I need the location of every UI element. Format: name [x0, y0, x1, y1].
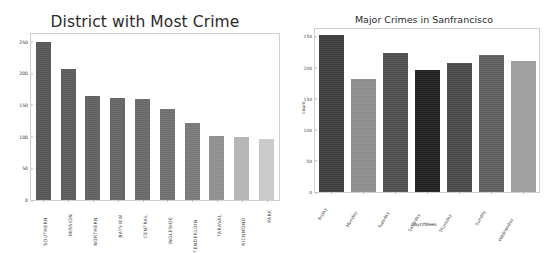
bar: [160, 109, 175, 200]
bar: [185, 123, 200, 200]
y-tick-label: 150: [19, 102, 31, 107]
x-tick-mark: [363, 192, 364, 194]
x-tick-mark: [459, 192, 460, 194]
x-tick-label: Friday: [317, 207, 328, 221]
bar: [511, 61, 536, 192]
y-tick-label: 200: [304, 65, 315, 70]
x-tick-label: SOUTHERN: [43, 217, 48, 246]
bar-series-right: [315, 29, 539, 192]
chart-major-crimes-in-sanfrancisco: Major Crimes in Sanfrancisco count 05010…: [290, 0, 558, 249]
x-tick-mark: [242, 200, 243, 202]
x-tick-label: TENDERLOIN: [192, 220, 197, 253]
bar: [135, 99, 150, 200]
bar-series-left: [31, 34, 279, 200]
bar: [383, 53, 408, 192]
x-tick-mark: [331, 192, 332, 194]
x-tick-mark: [43, 200, 44, 202]
y-tick-label: 100: [19, 134, 31, 139]
x-tick-mark: [167, 200, 168, 202]
x-tick-mark: [68, 200, 69, 202]
y-tick-label: 250: [304, 34, 315, 39]
bar: [415, 70, 440, 192]
y-tick-label: 150: [304, 96, 315, 101]
x-tick-mark: [93, 200, 94, 202]
chart-district-with-most-crime: District with Most Crime 050100150200250…: [0, 0, 290, 249]
y-tick-label: 200: [19, 71, 31, 76]
bar: [479, 55, 504, 192]
bar: [61, 69, 76, 200]
x-axis-labels-left: SOUTHERNMISSIONNORTHERNBAYVIEWCENTRALING…: [31, 200, 279, 248]
bar: [36, 42, 51, 200]
y-tick-label: 100: [304, 127, 315, 132]
bar: [259, 139, 274, 200]
chart-title-left: District with Most Crime: [0, 13, 290, 31]
bar: [85, 96, 100, 200]
x-tick-mark: [267, 200, 268, 202]
x-tick-label: INGLESIDE: [167, 217, 172, 245]
chart-title-right: Major Crimes in Sanfrancisco: [290, 14, 558, 25]
bar: [351, 79, 376, 192]
x-tick-mark: [491, 192, 492, 194]
bar: [110, 98, 125, 200]
y-tick-label: 250: [19, 39, 31, 44]
bar: [209, 136, 224, 200]
y-tick-label: 50: [22, 166, 31, 171]
x-tick-mark: [118, 200, 119, 202]
plot-area-right: 050100150200250 FridayMondayTuesdaySatur…: [314, 28, 540, 193]
x-tick-mark: [143, 200, 144, 202]
x-axis-labels-right: FridayMondayTuesdaySaturdayThursdaySunda…: [315, 192, 539, 226]
bar: [319, 35, 344, 192]
x-tick-label: BAYVIEW: [118, 215, 123, 238]
x-tick-mark: [217, 200, 218, 202]
x-tick-label: RICHMOND: [242, 217, 247, 246]
y-tick-label: 50: [306, 158, 315, 163]
bar: [234, 137, 249, 200]
x-tick-label: MISSION: [68, 214, 73, 236]
x-tick-mark: [192, 200, 193, 202]
x-tick-label: TARAVAL: [217, 214, 222, 236]
x-tick-mark: [523, 192, 524, 194]
x-tick-label: PARK: [267, 210, 272, 223]
bar: [447, 63, 472, 192]
x-tick-label: CENTRAL: [143, 215, 148, 239]
plot-area-left: 050100150200250 SOUTHERNMISSIONNORTHERNB…: [30, 33, 280, 201]
x-tick-mark: [427, 192, 428, 194]
x-axis-label-right: DayOfWeek: [290, 222, 558, 227]
x-tick-label: NORTHERN: [93, 217, 98, 246]
x-tick-mark: [395, 192, 396, 194]
